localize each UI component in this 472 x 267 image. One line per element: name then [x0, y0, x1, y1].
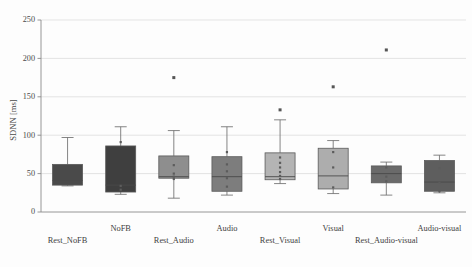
data-point — [226, 151, 228, 153]
outlier-point — [385, 48, 388, 51]
x-axis-label-1: NoFB — [110, 224, 131, 233]
data-point — [120, 141, 122, 143]
y-axis-ticks-group: 050100150200250 — [23, 15, 41, 216]
boxplot-figure: 050100150200250 Rest_NoFBNoFBRest_AudioA… — [0, 0, 472, 267]
data-point — [173, 176, 175, 178]
data-point — [226, 170, 228, 172]
data-point — [385, 180, 387, 182]
box-iqr-rect — [159, 156, 189, 178]
data-point — [438, 182, 440, 184]
x-axis-label-2: Rest_Audio — [154, 236, 194, 245]
data-point — [173, 164, 175, 166]
axes-group — [41, 20, 466, 212]
data-point — [279, 171, 281, 173]
y-tick-label-200: 200 — [23, 54, 35, 63]
x-axis-label-7: Audio-visual — [418, 224, 462, 233]
x-axis-label-3: Audio — [216, 224, 237, 233]
x-axis-label-4: Rest_Visual — [260, 236, 301, 245]
gridlines-group — [41, 20, 466, 174]
data-point — [120, 189, 122, 191]
boxplot-visual — [318, 85, 348, 193]
outlier-point — [332, 85, 335, 88]
y-tick-label-50: 50 — [27, 169, 35, 178]
x-axis-label-5: Visual — [323, 224, 345, 233]
outlier-point — [279, 108, 282, 111]
box-iqr-rect — [53, 164, 83, 185]
data-point — [173, 173, 175, 175]
box-iqr-rect — [424, 161, 454, 192]
data-point — [332, 186, 334, 188]
y-axis-title: SDNN [ms] — [8, 99, 18, 140]
boxplot-rest-audio-visual — [371, 48, 401, 195]
box-iqr-rect — [318, 148, 348, 189]
data-point — [438, 190, 440, 192]
y-tick-label-0: 0 — [31, 207, 35, 216]
y-axis-label-group: SDNN [ms] — [8, 99, 18, 140]
data-point — [279, 156, 281, 158]
boxplot-nofb — [106, 127, 136, 195]
data-point — [226, 177, 228, 179]
data-point — [438, 167, 440, 169]
data-point — [385, 176, 387, 178]
boxplot-rest-nofb — [53, 138, 83, 186]
data-point — [279, 178, 281, 180]
data-point — [279, 175, 281, 177]
boxplot-rest-audio — [159, 76, 189, 198]
outlier-point — [172, 76, 175, 79]
boxes-group — [53, 48, 455, 198]
data-point — [332, 166, 334, 168]
y-tick-label-150: 150 — [23, 92, 35, 101]
data-point — [279, 166, 281, 168]
data-point — [385, 166, 387, 168]
y-tick-label-250: 250 — [23, 15, 35, 24]
data-point — [226, 163, 228, 165]
x-axis-labels-group: Rest_NoFBNoFBRest_AudioAudioRest_VisualV… — [48, 224, 462, 245]
x-axis-label-0: Rest_NoFB — [48, 236, 88, 245]
y-tick-label-100: 100 — [23, 131, 35, 140]
data-point — [120, 185, 122, 187]
boxplot-audio — [212, 127, 242, 195]
data-point — [226, 186, 228, 188]
boxplot-rest-visual — [265, 108, 295, 183]
data-point — [173, 178, 175, 180]
data-point — [332, 151, 334, 153]
x-axis-label-6: Rest_Audio-visual — [355, 236, 418, 245]
data-point — [279, 162, 281, 164]
boxplot-audio-visual — [424, 155, 454, 193]
plot-canvas: 050100150200250 Rest_NoFBNoFBRest_AudioA… — [0, 0, 472, 267]
